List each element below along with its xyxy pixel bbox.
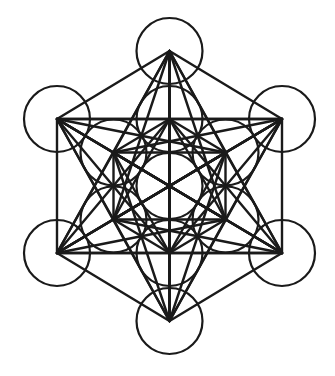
line-outer-lower-right-to-outer-bottom — [170, 253, 283, 321]
line-outer-top-to-outer-upper-left — [57, 51, 170, 119]
metatrons-cube-diagram — [0, 0, 335, 376]
connecting-lines — [57, 51, 282, 321]
line-outer-bottom-to-outer-lower-left — [57, 253, 170, 321]
line-outer-top-to-outer-upper-right — [170, 51, 283, 119]
metatrons-cube-svg — [0, 0, 335, 376]
